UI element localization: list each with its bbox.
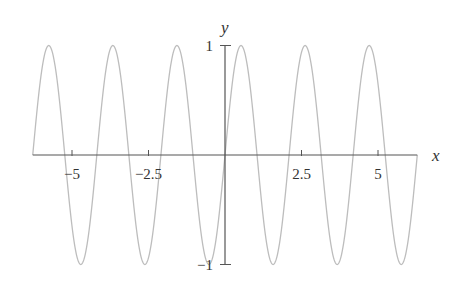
x-tick-label: 5 <box>374 166 382 182</box>
x-tick-label: −5 <box>64 166 80 182</box>
y-tick-label: 1 <box>206 38 214 54</box>
y-axis-label: y <box>219 18 229 37</box>
x-tick-label: −2.5 <box>135 166 162 182</box>
axes <box>33 46 418 265</box>
y-tick-label: −1 <box>197 257 213 273</box>
sine-chart: −5−2.52.55 1−1 x y <box>0 0 465 283</box>
x-tick-label: 2.5 <box>292 166 311 182</box>
x-axis-label: x <box>431 146 440 165</box>
